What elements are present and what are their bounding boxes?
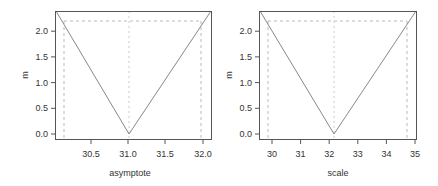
x-axis-ticks (272, 140, 415, 144)
y-axis-ticks (51, 31, 55, 134)
svg-text:0.5: 0.5 (239, 103, 252, 113)
svg-text:2.0: 2.0 (35, 26, 48, 36)
svg-text:31: 31 (296, 149, 306, 159)
plot-frame (260, 12, 417, 140)
x-axis-title: scale (327, 168, 348, 178)
svg-text:1.5: 1.5 (239, 52, 252, 62)
svg-text:32.0: 32.0 (194, 149, 212, 159)
svg-text:33: 33 (353, 149, 363, 159)
svg-text:31.5: 31.5 (156, 149, 174, 159)
x-axis-title: asymptote (109, 168, 151, 178)
svg-text:1.0: 1.0 (35, 78, 48, 88)
x-axis-ticks (91, 140, 203, 144)
svg-text:1.0: 1.0 (239, 78, 252, 88)
svg-text:0.0: 0.0 (35, 129, 48, 139)
svg-text:0.5: 0.5 (35, 103, 48, 113)
y-axis-title: m (20, 71, 30, 79)
svg-text:30.5: 30.5 (82, 149, 100, 159)
svg-text:2.0: 2.0 (239, 26, 252, 36)
chart-canvas: 0.0 0.5 1.0 1.5 2.0 30.5 31.0 31.5 32.0 … (0, 0, 438, 186)
svg-text:0.0: 0.0 (239, 129, 252, 139)
svg-text:1.5: 1.5 (35, 52, 48, 62)
y-axis-ticks (255, 31, 259, 134)
x-axis-labels: 30 31 32 33 34 35 (267, 149, 420, 159)
svg-text:30: 30 (267, 149, 277, 159)
svg-text:35: 35 (410, 149, 420, 159)
y-axis-title: m (224, 71, 234, 79)
x-axis-labels: 30.5 31.0 31.5 32.0 (82, 149, 212, 159)
profile-curve (56, 11, 211, 134)
panel-scale: 0.0 0.5 1.0 1.5 2.0 30 31 32 33 34 35 sc… (224, 11, 420, 178)
plot-frame (56, 12, 212, 140)
y-axis-labels: 0.0 0.5 1.0 1.5 2.0 (239, 26, 252, 139)
svg-text:31.0: 31.0 (119, 149, 137, 159)
profile-curve (260, 11, 416, 134)
panel-asymptote: 0.0 0.5 1.0 1.5 2.0 30.5 31.0 31.5 32.0 … (20, 11, 212, 178)
svg-text:32: 32 (324, 149, 334, 159)
svg-text:34: 34 (381, 149, 391, 159)
y-axis-labels: 0.0 0.5 1.0 1.5 2.0 (35, 26, 48, 139)
